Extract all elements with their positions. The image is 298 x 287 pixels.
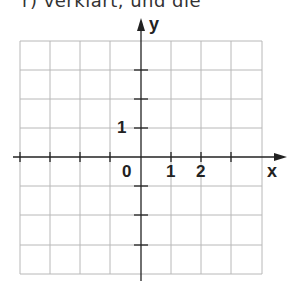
x-tick-label-1: 1	[166, 162, 175, 182]
coordinate-grid	[0, 0, 298, 287]
x-axis-arrow-icon	[274, 153, 287, 161]
axes	[13, 25, 280, 281]
y-tick-label-1: 1	[117, 118, 126, 138]
y-axis-label: y	[149, 14, 159, 35]
x-tick-label-2: 2	[196, 162, 205, 182]
y-axis-arrow-icon	[137, 18, 145, 31]
x-axis-label: x	[267, 161, 277, 182]
origin-label: 0	[122, 162, 131, 182]
